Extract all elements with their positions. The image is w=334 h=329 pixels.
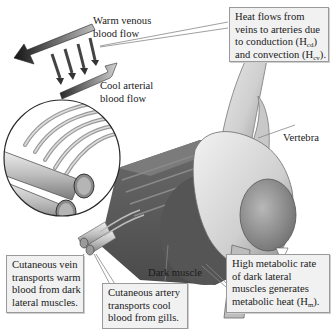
vein-line-3: blood from dark (12, 284, 78, 297)
vein-line-1: Cutaneous vein (12, 259, 78, 272)
cutaneous-vein-callout: Cutaneous vein transports warm blood fro… (6, 255, 84, 313)
heat-flow-callout: Heat flows from veins to arteries due to… (229, 7, 329, 62)
metabolic-line-4-text: metabolic heat (H (232, 296, 308, 307)
artery-line-2: transports cool (108, 300, 182, 313)
metabolic-line-3: muscles generates (232, 283, 324, 296)
metabolic-heat-callout: High metabolic rate of dark lateral musc… (226, 254, 330, 313)
subscript-cv: cv (313, 54, 320, 62)
cutaneous-artery-callout: Cutaneous artery transports cool blood f… (102, 283, 188, 329)
heat-flow-line-1: Heat flows from (235, 11, 323, 24)
metabolic-line-4-end: ). (313, 296, 319, 307)
heat-flow-line-3-text: to conduction (H (235, 36, 307, 47)
cool-arterial-label: Cool arterial blood flow (100, 80, 153, 105)
metabolic-line-4: metabolic heat (Hm). (232, 296, 324, 309)
vein-line-2: transports warm (12, 272, 78, 285)
metabolic-line-2: of dark lateral (232, 271, 324, 284)
heat-flow-line-3-end: ) (313, 36, 317, 47)
artery-line-3: blood from gills. (108, 312, 182, 325)
heat-flow-line-4-text: and convection (H (235, 49, 313, 60)
warm-venous-line-1: Warm venous (93, 15, 151, 28)
vertebra-label: Vertebra (283, 132, 319, 145)
cool-arterial-line-2: blood flow (100, 93, 153, 106)
warm-venous-label: Warm venous blood flow (93, 15, 151, 40)
cool-arterial-line-1: Cool arterial (100, 80, 153, 93)
dark-muscle-label: Dark muscle (148, 267, 202, 280)
heat-flow-line-4: and convection (Hcv). (235, 49, 323, 62)
heat-flow-line-4-end: ). (320, 49, 326, 60)
heat-flow-line-2: veins to arteries due (235, 24, 323, 37)
metabolic-line-1: High metabolic rate (232, 258, 324, 271)
heat-flow-line-3: to conduction (Hcd) (235, 36, 323, 49)
vein-line-4: lateral muscles. (12, 297, 78, 310)
warm-venous-line-2: blood flow (93, 28, 151, 41)
artery-line-1: Cutaneous artery (108, 287, 182, 300)
